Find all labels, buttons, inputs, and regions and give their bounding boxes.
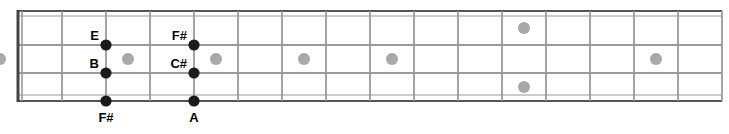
fretboard-svg: EBF#F#C#A: [0, 0, 729, 134]
note-dot: [100, 95, 111, 106]
note-label: C#: [170, 56, 187, 71]
nut-group: [18, 10, 22, 102]
inlay-marker: [386, 53, 398, 65]
note-dot: [100, 67, 111, 78]
inlay-marker: [0, 53, 6, 65]
inlay-marker: [122, 53, 134, 65]
note-dot: [188, 39, 199, 50]
note-label: F#: [172, 28, 188, 43]
note-dot: [188, 67, 199, 78]
inlay-marker: [298, 53, 310, 65]
fretboard-diagram: EBF#F#C#A: [0, 0, 729, 134]
note-label: B: [90, 56, 99, 71]
inlay-marker: [518, 81, 530, 93]
inlay-marker: [650, 53, 662, 65]
note-label: E: [90, 28, 99, 43]
note-label: A: [189, 110, 199, 125]
note-dot: [188, 95, 199, 106]
inlay-marker: [210, 53, 222, 65]
inlay-markers-group: [0, 22, 662, 93]
note-dot: [100, 39, 111, 50]
note-label: F#: [98, 110, 114, 125]
inlay-marker: [518, 22, 530, 34]
